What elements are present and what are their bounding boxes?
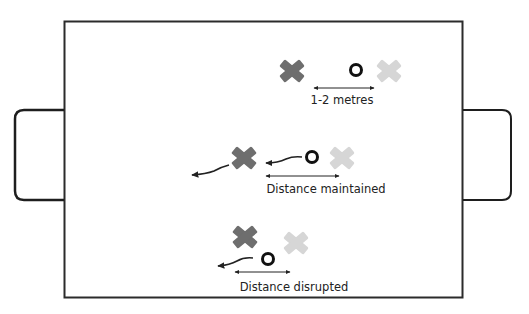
pitch-diagram: 1-2 metres Distance maintained Distance … xyxy=(0,0,529,314)
left-goal xyxy=(15,110,64,200)
scene-label: Distance disrupted xyxy=(240,280,349,294)
movement-arrow xyxy=(218,258,253,266)
ball-icon xyxy=(307,152,318,163)
movement-arrow xyxy=(192,165,229,175)
defender-x-icon xyxy=(376,59,402,83)
defender-x-icon xyxy=(283,231,309,255)
scene-3: Distance disrupted xyxy=(218,225,348,294)
right-goal xyxy=(463,110,511,200)
defender-x-icon xyxy=(329,146,355,170)
attacker-x-icon xyxy=(232,225,258,249)
scene-label: 1-2 metres xyxy=(311,93,374,107)
scene-2: Distance maintained xyxy=(192,146,386,196)
scene-label: Distance maintained xyxy=(266,182,385,196)
scene-1: 1-2 metres xyxy=(279,59,402,107)
attacker-x-icon xyxy=(231,146,257,170)
movement-arrow xyxy=(266,157,302,163)
ball-icon xyxy=(263,254,274,265)
ball-icon xyxy=(351,65,362,76)
attacker-x-icon xyxy=(279,59,305,83)
